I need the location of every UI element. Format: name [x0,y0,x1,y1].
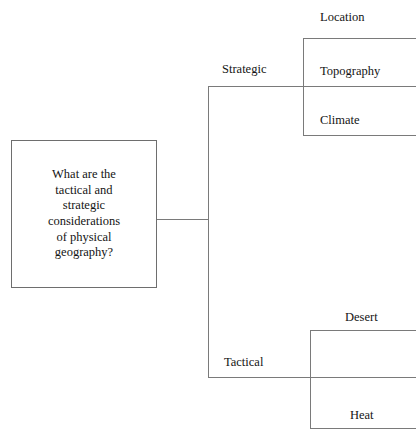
leaf-label-desert[interactable]: Desert [345,310,378,324]
leaf-label-heat[interactable]: Heat [350,408,374,422]
tactical-branch-line [208,377,416,378]
strategic-children-spine [303,38,304,135]
location-leaf-line [303,38,416,39]
tactical-children-spine [310,330,311,428]
climate-leaf-line [303,135,416,136]
branch-label-tactical[interactable]: Tactical [224,355,263,369]
root-question-label: What are the tactical and strategic cons… [38,167,130,261]
leaf-label-topography[interactable]: Topography [320,64,380,78]
trunk-connector-line [157,219,208,220]
leaf-label-climate[interactable]: Climate [320,113,360,127]
desert-leaf-line [310,330,416,331]
leaf-label-location[interactable]: Location [320,10,364,24]
strategic-branch-line [208,86,416,87]
trunk-spine-line [208,86,209,377]
diagram-canvas: What are the tactical and strategic cons… [0,0,416,433]
root-question-box[interactable]: What are the tactical and strategic cons… [11,140,157,288]
heat-leaf-line [310,428,416,429]
branch-label-strategic[interactable]: Strategic [222,62,266,76]
